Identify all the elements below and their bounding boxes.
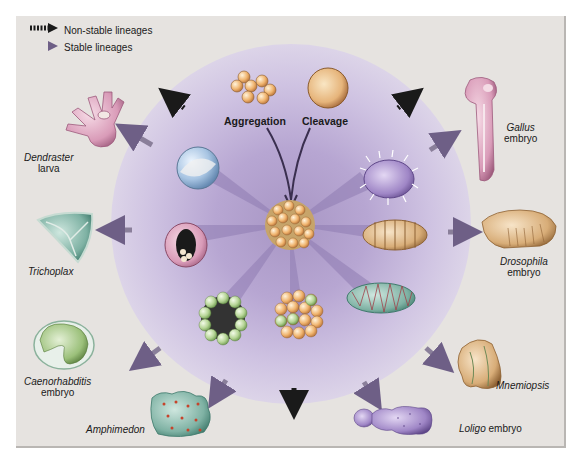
organism-name: Gallus [507, 122, 535, 133]
legend-label: Non-stable lineages [64, 25, 152, 36]
stage-ribbed-embryo-icon [347, 283, 415, 313]
organism-name: Trichoplax [28, 266, 73, 277]
stage-striped-embryo-icon [363, 220, 427, 250]
legend: Non-stable lineages Stable lineages [28, 22, 152, 56]
loligo-embryo-icon [354, 406, 432, 434]
cleavage-egg-icon [308, 68, 348, 108]
organism-suffix: embryo [41, 387, 74, 398]
aggregation-label: Aggregation [224, 116, 286, 127]
trichoplax-label: Trichoplax [28, 266, 73, 277]
gallus-label: Gallus embryo [504, 122, 537, 144]
stage-split-sphere-icon [177, 147, 219, 189]
drosophila-embryo-icon [482, 210, 556, 248]
organism-name: Caenorhabditis [24, 376, 91, 387]
caenorhabditis-label: Caenorhabditis embryo [24, 376, 91, 398]
legend-item-nonstable: Non-stable lineages [28, 22, 152, 39]
organism-suffix: embryo [507, 267, 540, 278]
gallus-embryo-icon [465, 77, 496, 180]
organism-name: Amphimedon [86, 424, 145, 435]
central-cell-cluster-icon [265, 200, 315, 250]
organism-name: Drosophila [500, 256, 548, 267]
loligo-label: Loligo embryo [459, 423, 522, 434]
dendraster-label: Dendraster larva [24, 152, 73, 174]
organism-name: Dendraster [24, 152, 73, 163]
aggregation-cells-icon [231, 71, 276, 104]
legend-label: Stable lineages [64, 42, 132, 53]
stage-blastocoel-sphere-icon [165, 223, 207, 267]
mnemiopsis-label: Mnemiopsis [496, 380, 549, 391]
dendraster-larva-icon [66, 92, 124, 147]
stage-hollow-blastula-icon [199, 292, 247, 345]
amphimedon-icon [151, 391, 210, 436]
legend-item-stable: Stable lineages [28, 39, 152, 56]
organism-suffix: larva [38, 163, 60, 174]
mnemiopsis-icon [458, 340, 501, 389]
amphimedon-label: Amphimedon [86, 424, 145, 435]
stage-spiky-sphere-icon [360, 150, 418, 205]
organism-name: Loligo [459, 423, 486, 434]
organism-suffix: embryo [488, 423, 521, 434]
caenorhabditis-embryo-icon [34, 321, 94, 369]
stable-arrows [110, 131, 468, 398]
trichoplax-icon [38, 213, 92, 262]
cleavage-label: Cleavage [302, 116, 348, 127]
drosophila-label: Drosophila embryo [500, 256, 548, 278]
organism-name: Mnemiopsis [496, 380, 549, 391]
organism-suffix: embryo [504, 133, 537, 144]
